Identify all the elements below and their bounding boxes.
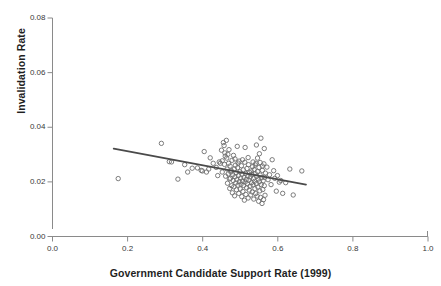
x-tick-label: 1.0 bbox=[413, 244, 441, 253]
scatter-point bbox=[227, 147, 231, 151]
scatter-point bbox=[232, 194, 236, 198]
scatter-point bbox=[257, 152, 261, 156]
scatter-point bbox=[211, 161, 215, 165]
scatter-point bbox=[185, 170, 189, 174]
scatter-point bbox=[176, 177, 180, 181]
scatter-point bbox=[267, 173, 271, 177]
x-axis-title: Government Candidate Support Rate (1999) bbox=[110, 267, 332, 279]
scatter-point bbox=[222, 143, 226, 147]
scatter-point bbox=[262, 146, 266, 150]
scatter-plot-figure: 0.000.020.040.060.08 0.00.20.40.60.81.0 … bbox=[0, 0, 441, 286]
x-tick-label: 0.2 bbox=[113, 244, 143, 253]
scatter-point bbox=[255, 156, 259, 160]
scatter-point bbox=[269, 182, 273, 186]
scatter-point bbox=[182, 162, 186, 166]
scatter-point bbox=[116, 176, 120, 180]
scatter-point bbox=[271, 168, 275, 172]
scatter-point bbox=[243, 145, 247, 149]
scatter-point bbox=[300, 169, 304, 173]
regression-trendline bbox=[114, 149, 306, 185]
scatter-point bbox=[216, 173, 220, 177]
x-tick-label: 0.6 bbox=[263, 244, 293, 253]
y-tick-label: 0.00 bbox=[18, 232, 46, 241]
scatter-point bbox=[288, 167, 292, 171]
scatter-point bbox=[274, 189, 278, 193]
scatter-point bbox=[159, 141, 163, 145]
x-axis-title-wrapper: Government Candidate Support Rate (1999) bbox=[0, 263, 441, 281]
y-tick-label: 0.02 bbox=[18, 177, 46, 186]
x-tick-label: 0.4 bbox=[188, 244, 218, 253]
scatter-points bbox=[116, 136, 304, 206]
scatter-point bbox=[230, 191, 234, 195]
scatter-point bbox=[280, 191, 284, 195]
scatter-point bbox=[263, 193, 267, 197]
scatter-point bbox=[235, 144, 239, 148]
y-axis-title-wrapper: Invalidation Rate bbox=[11, 0, 29, 146]
scatter-point bbox=[291, 193, 295, 197]
scatter-point bbox=[208, 156, 212, 160]
scatter-point bbox=[246, 155, 250, 159]
scatter-point bbox=[204, 170, 208, 174]
scatter-point bbox=[265, 165, 269, 169]
scatter-point bbox=[270, 158, 274, 162]
scatter-point bbox=[275, 173, 279, 177]
y-axis-ticks bbox=[48, 18, 53, 237]
scatter-point bbox=[202, 149, 206, 153]
scatter-point bbox=[259, 136, 263, 140]
axes bbox=[48, 18, 429, 242]
x-tick-label: 0.8 bbox=[338, 244, 368, 253]
scatter-point bbox=[220, 170, 224, 174]
x-axis-ticks bbox=[53, 237, 429, 242]
scatter-point bbox=[190, 166, 194, 170]
scatter-point bbox=[225, 181, 229, 185]
scatter-point bbox=[254, 143, 258, 147]
y-axis-title: Invalidation Rate bbox=[15, 28, 27, 114]
x-tick-label: 0.0 bbox=[38, 244, 68, 253]
